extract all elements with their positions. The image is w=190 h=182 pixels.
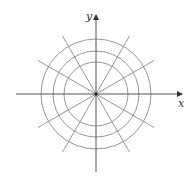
radial-line-120deg (63, 36, 97, 94)
origin-point (94, 92, 97, 95)
radial-line-300deg (96, 94, 130, 152)
x-axis-label: x (178, 97, 185, 110)
radial-line-30deg (96, 61, 154, 95)
polar-grid-figure: x y (0, 0, 190, 182)
radial-line-330deg (96, 94, 154, 128)
axes (16, 15, 182, 172)
radial-line-150deg (38, 61, 96, 95)
radial-line-210deg (38, 94, 96, 128)
y-axis-label: y (85, 10, 93, 23)
radial-line-60deg (96, 36, 130, 94)
radial-line-240deg (63, 94, 97, 152)
